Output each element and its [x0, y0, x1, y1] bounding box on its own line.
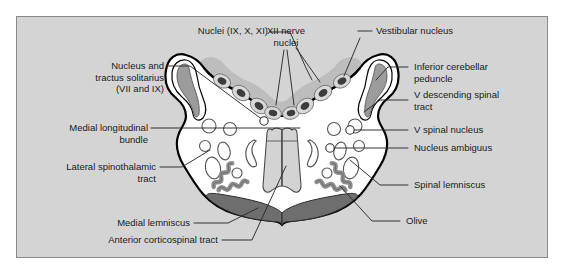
label-olive: Olive: [406, 215, 506, 227]
label-spinal-lemniscus: Spinal lemniscus: [414, 179, 554, 191]
label-v-descending-spinal-tract-line1: V descending spinal: [414, 89, 544, 101]
label-inferior-cerebellar-peduncle-line1: Inferior cerebellar: [414, 61, 540, 73]
label-nucleus-tractus-solitarius-line2: tractus solitarius: [30, 72, 164, 84]
na-endpoint: [326, 144, 334, 152]
label-xii-nerve-nuclei-line1: XII nerve: [248, 25, 324, 37]
label-lateral-spinothalamic-tract-line2: tract: [18, 173, 156, 185]
medulla-outline-group: [165, 54, 398, 225]
label-vestibular-nucleus: Vestibular nucleus: [376, 25, 526, 37]
vsn-endpoint: [346, 126, 354, 134]
leader-xii-left: [276, 50, 284, 105]
label-xii-nerve-nuclei-line2: nuclei: [248, 37, 324, 49]
label-v-descending-spinal-tract-line2: tract: [414, 101, 544, 113]
label-nucleus-tractus-solitarius-line3: (VII and IX): [30, 83, 164, 95]
label-medial-lemniscus: Medial lemniscus: [78, 217, 190, 229]
label-nucleus-tractus-solitarius-line1: Nucleus and: [30, 60, 164, 72]
label-medial-longitudinal-bundle-line2: bundle: [20, 134, 148, 146]
label-inferior-cerebellar-peduncle-line2: peduncle: [414, 73, 540, 85]
solitarius-endpoint: [260, 117, 268, 125]
anterior-corticospinal-tract-pyramids: [263, 128, 301, 192]
figure-root: Nuclei (IX, X, XI) XII nerve nuclei Vest…: [0, 0, 564, 276]
label-anterior-corticospinal-tract: Anterior corticospinal tract: [42, 234, 218, 246]
label-nucleus-ambiguus: Nucleus ambiguus: [414, 142, 544, 154]
label-medial-longitudinal-bundle-line1: Medial longitudinal: [20, 122, 148, 134]
leader-nuclei-ix-x-xi-2: [296, 48, 320, 82]
label-nuclei-ix-x-xi: Nuclei (IX, X, XI): [100, 25, 268, 37]
label-v-spinal-nucleus: V spinal nucleus: [414, 124, 544, 136]
label-lateral-spinothalamic-tract-line1: Lateral spinothalamic: [18, 161, 156, 173]
